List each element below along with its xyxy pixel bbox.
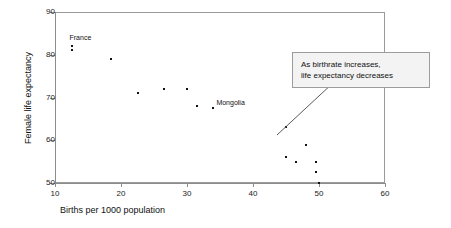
x-tick-mark [385,183,386,187]
x-axis-line [55,183,386,184]
plot-frame [55,12,385,183]
x-tick-mark [253,183,254,187]
y-axis-title: Female life expectancy [23,23,33,173]
data-point-marker [196,105,198,107]
x-tick-label: 10 [40,189,70,198]
annotation-callout-box: As birthrate increases, life expectancy … [292,52,430,88]
data-point-marker [110,58,112,60]
x-tick-label: 60 [370,189,400,198]
data-point-marker [163,88,165,90]
y-tick-label: 80 [33,51,55,59]
data-point-marker [71,49,73,51]
data-point-marker [318,182,320,184]
annotation-line-1: As birthrate increases, [301,59,429,70]
x-tick-mark [55,183,56,187]
y-tick-label: 70 [33,94,55,102]
x-tick-label: 30 [172,189,202,198]
annotation-line-2: life expectancy decreases [301,70,429,81]
x-tick-label: 20 [106,189,136,198]
point-label-france: France [70,34,92,42]
x-tick-mark [187,183,188,187]
x-tick-label: 50 [304,189,334,198]
data-point-marker [315,161,317,163]
y-axis-line [55,12,56,184]
data-point-marker [285,156,287,158]
data-point-marker [186,88,188,90]
x-tick-mark [121,183,122,187]
y-tick-label: 50 [33,179,55,187]
data-point-marker [285,126,287,128]
data-point-marker [212,107,214,109]
point-label-mongolia: Mongolia [216,99,244,107]
data-point-marker [137,92,139,94]
data-point-marker [315,171,317,173]
x-tick-label: 40 [238,189,268,198]
scatter-chart-figure: 5060708090 102030405060 FranceMongolia A… [0,0,451,228]
x-axis-title: Births per 1000 population [60,205,165,215]
data-point-marker [71,45,73,47]
data-point-marker [295,161,297,163]
y-tick-label: 60 [33,136,55,144]
data-point-marker [305,144,307,146]
y-tick-label: 90 [33,8,55,16]
